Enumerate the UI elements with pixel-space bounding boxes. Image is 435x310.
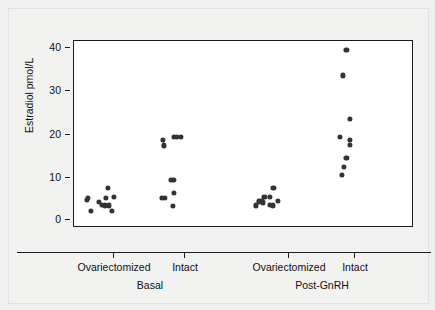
data-point bbox=[105, 185, 110, 190]
data-point bbox=[162, 143, 167, 148]
x-tick-label-ovariectomized-postgnrh: Ovariectomized bbox=[253, 261, 326, 273]
data-point bbox=[178, 134, 183, 139]
x-tick-mark-1 bbox=[113, 252, 114, 258]
data-point bbox=[171, 177, 176, 182]
x-axis-line bbox=[17, 252, 431, 253]
data-point bbox=[170, 203, 175, 208]
y-axis-label: Estradiol pmol/L bbox=[23, 58, 35, 133]
x-tick-mark-4 bbox=[354, 252, 355, 258]
data-point bbox=[344, 155, 349, 160]
figure-frame: Estradiol pmol/L 40 30 20 10 0 Ovariecto… bbox=[8, 8, 429, 304]
data-point bbox=[172, 190, 177, 195]
data-point bbox=[271, 185, 276, 190]
data-point bbox=[348, 142, 353, 147]
data-point bbox=[88, 208, 93, 213]
y-tick-label-20: 20 bbox=[39, 128, 61, 140]
y-tick-mark-0 bbox=[65, 219, 70, 220]
data-point bbox=[270, 203, 275, 208]
y-tick-label-30: 30 bbox=[39, 84, 61, 96]
y-tick-label-10: 10 bbox=[39, 171, 61, 183]
x-tick-mark-3 bbox=[288, 252, 289, 258]
x-group-label-post-gnrh: Post-GnRH bbox=[295, 279, 349, 291]
y-tick-mark-10 bbox=[65, 177, 70, 178]
data-point bbox=[85, 195, 90, 200]
data-point bbox=[162, 195, 167, 200]
plot-area bbox=[73, 40, 413, 227]
x-group-label-basal: Basal bbox=[137, 279, 163, 291]
data-point bbox=[267, 194, 272, 199]
x-tick-label-intact-postgnrh: Intact bbox=[342, 261, 368, 273]
data-point bbox=[337, 134, 342, 139]
x-tick-label-intact-basal: Intact bbox=[172, 261, 198, 273]
data-point bbox=[104, 195, 109, 200]
x-tick-mark-2 bbox=[184, 252, 185, 258]
y-tick-label-0: 0 bbox=[39, 213, 61, 225]
y-tick-mark-40 bbox=[65, 47, 70, 48]
y-tick-label-40: 40 bbox=[39, 41, 61, 53]
data-point bbox=[261, 200, 266, 205]
y-tick-mark-30 bbox=[65, 90, 70, 91]
figure-root: Estradiol pmol/L 40 30 20 10 0 Ovariecto… bbox=[0, 0, 435, 310]
data-point bbox=[341, 165, 346, 170]
data-point bbox=[339, 172, 344, 177]
data-point bbox=[106, 203, 111, 208]
data-point bbox=[344, 47, 349, 52]
x-tick-label-ovariectomized-basal: Ovariectomized bbox=[78, 261, 151, 273]
data-point bbox=[340, 73, 345, 78]
data-point bbox=[111, 194, 116, 199]
data-point bbox=[347, 117, 352, 122]
y-tick-mark-20 bbox=[65, 134, 70, 135]
data-point bbox=[275, 198, 280, 203]
data-point bbox=[110, 208, 115, 213]
